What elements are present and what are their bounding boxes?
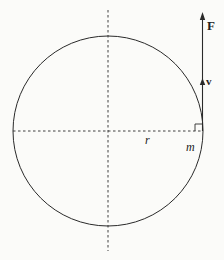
force-label: F (207, 19, 215, 32)
velocity-label: v (206, 76, 212, 87)
mass-label: m (186, 141, 195, 153)
velocity-arrowhead-icon (200, 78, 205, 85)
right-angle-marker-icon (195, 124, 203, 131)
circular-motion-diagram: F v r m (0, 0, 224, 260)
radius-label: r (145, 134, 150, 146)
diagram-graphic (0, 0, 224, 260)
force-arrowhead-icon (200, 12, 205, 20)
